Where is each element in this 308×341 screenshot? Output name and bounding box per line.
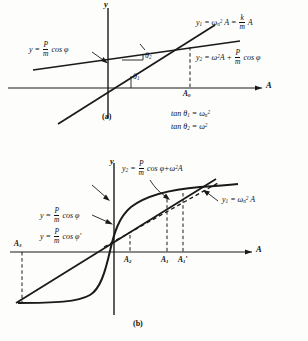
panel-a-tick-a0: A0 [183,90,190,99]
panel-a-graphics [0,0,308,155]
panel-a-x-axis-label: A [266,81,272,90]
panel-b-tick-a1: A1 [161,256,168,265]
panel-b-equation-y2: y2 = Pm cos φ+ω2A [122,160,183,176]
panel-b-intercept-label-phi-prime: y = Pm cos φ′ [40,228,81,244]
panel-a-equation-y1: y1 = ωn2 A = km A [196,14,253,30]
panel-a-tan-theta1: tan θ1 = ωn2 [171,110,210,119]
panel-a-x-arrow [255,86,262,91]
panel-b-tick-a2: A2 [124,256,131,265]
panel-b-x-arrow [245,250,252,255]
panel-a-y-axis-label: y [104,0,108,9]
panel-a-intercept-label: y = Pm cos φ [29,41,69,57]
panel-a-angle2-pointer [140,44,145,50]
panel-b-intercept2-arrow-head [105,219,113,225]
panel-b-x-axis-label: A [256,245,262,254]
panel-a-equation-y2: y2 = ω2A + Pm cos φ [196,49,261,65]
panel-b-intercept-label-phi: y = Pm cos φ [40,207,80,223]
panel-b-y1-pointer-head [203,190,210,196]
panel-a-angle-theta2: θ2 [145,52,152,60]
panel-b-equation-y1: y1 = ωn2 A [222,196,255,205]
panel-a-angle-theta1: θ1 [133,73,140,81]
panel-a-caption: (a) [102,113,111,121]
panel-b-caption: (b) [133,320,143,328]
figure-container: y A y1 = ωn2 A = km A y2 = ω2A + Pm cos … [0,0,308,341]
panel-b-y-axis-label: y [110,157,114,166]
panel-a-tan-theta2: tan θ2 = ω2 [171,123,207,132]
panel-b-tick-a3: A3 [14,240,21,249]
panel-b-tick-a1-prime: A1′ [178,256,188,265]
